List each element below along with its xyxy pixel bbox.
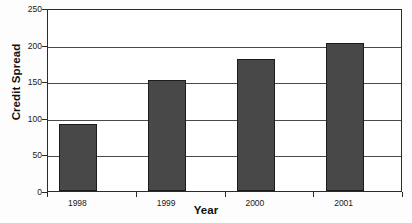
y-tick-label: 250 xyxy=(12,4,42,14)
y-tick-label: 100 xyxy=(12,114,42,124)
bar xyxy=(237,59,275,191)
y-tick-label: 50 xyxy=(12,150,42,160)
x-tick-mark xyxy=(47,192,48,197)
bar xyxy=(326,43,364,191)
x-axis-title: Year xyxy=(0,204,412,216)
y-tick-mark xyxy=(42,119,47,120)
y-axis-tick-labels: 050100150200250 xyxy=(12,0,42,223)
x-tick-mark xyxy=(402,192,403,197)
plot-area xyxy=(47,9,402,192)
y-tick-mark xyxy=(42,46,47,47)
y-tick-mark xyxy=(42,9,47,10)
y-tick-mark xyxy=(42,155,47,156)
y-tick-label: 150 xyxy=(12,77,42,87)
y-tick-mark xyxy=(42,82,47,83)
x-tick-mark xyxy=(313,192,314,197)
bar xyxy=(59,124,97,191)
bar xyxy=(148,80,186,191)
x-tick-mark xyxy=(136,192,137,197)
y-tick-label: 0 xyxy=(12,187,42,197)
y-tick-label: 200 xyxy=(12,41,42,51)
bar-chart: Credit Spread 050100150200250 1998199920… xyxy=(0,0,412,223)
x-tick-mark xyxy=(225,192,226,197)
y-tick-mark xyxy=(42,192,47,193)
